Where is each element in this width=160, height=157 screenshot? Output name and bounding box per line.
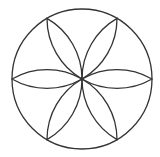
petals-group [12, 18, 152, 139]
diagram-canvas [0, 0, 160, 157]
rosette-figure [0, 0, 160, 157]
